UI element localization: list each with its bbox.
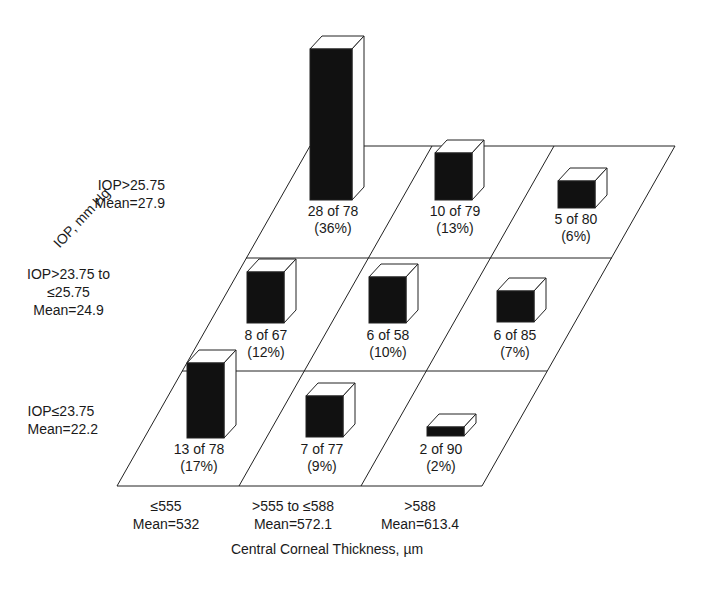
column-label: >555 to ≤588Mean=572.1 — [252, 497, 334, 533]
cell-label: 6 of 58(10%) — [367, 327, 410, 361]
cell-label: 2 of 90(2%) — [420, 441, 463, 475]
cell-label: 6 of 85(7%) — [494, 327, 537, 361]
column-label: ≤555Mean=532 — [133, 497, 200, 533]
column-label: >588Mean=613.4 — [381, 497, 459, 533]
cell-label: 5 of 80(6%) — [555, 211, 598, 245]
row-label: IOP>23.75 to≤25.75Mean=24.9 — [27, 265, 110, 319]
row-label: IOP≤23.75Mean=22.2 — [28, 402, 98, 438]
cell-label: 8 of 67(12%) — [245, 327, 288, 361]
x-axis-title: Central Corneal Thickness, µm — [231, 541, 423, 557]
cell-label: 7 of 77(9%) — [301, 441, 344, 475]
cell-label: 28 of 78(36%) — [308, 203, 359, 237]
cell-label: 13 of 78(17%) — [174, 441, 225, 475]
cell-label: 10 of 79(13%) — [430, 203, 481, 237]
